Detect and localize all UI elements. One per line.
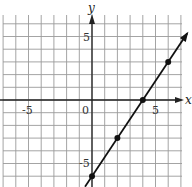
x-tick-label-neg5: -5	[22, 104, 33, 117]
y-tick-label-5: 5	[83, 31, 90, 44]
data-point	[165, 59, 171, 65]
origin-label: 0	[82, 104, 89, 117]
x-axis-label: x	[185, 93, 192, 107]
data-point	[140, 97, 146, 103]
axes	[0, 14, 184, 187]
data-point	[114, 135, 120, 141]
y-axis-label: y	[87, 1, 95, 15]
coordinate-plane: -5 0 5 5 -5 y x	[0, 0, 192, 187]
x-axis-arrow-icon	[175, 97, 184, 103]
x-tick-label-5: 5	[152, 104, 159, 117]
y-tick-label-neg5: -5	[79, 157, 90, 170]
y-axis-arrow-icon	[89, 14, 95, 24]
data-point	[89, 173, 95, 179]
